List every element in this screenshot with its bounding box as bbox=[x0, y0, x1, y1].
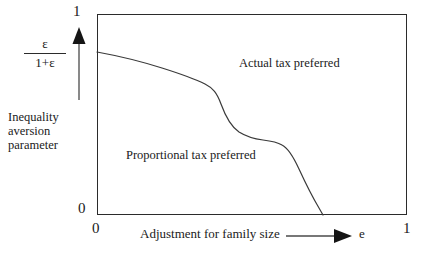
y-axis-caption-line-1: Inequality bbox=[8, 110, 88, 124]
region-label-actual-tax: Actual tax preferred bbox=[239, 56, 340, 70]
y-axis-tick-top: 1 bbox=[73, 3, 81, 20]
right-arrow-icon bbox=[286, 228, 354, 244]
y-axis-fraction-label: ε 1+ε bbox=[14, 36, 76, 71]
x-axis-symbol: e bbox=[359, 227, 365, 242]
fraction-denominator: 1+ε bbox=[14, 54, 76, 71]
region-label-proportional-tax: Proportional tax preferred bbox=[126, 148, 256, 162]
y-axis-tick-bottom: 0 bbox=[78, 200, 86, 217]
x-axis-tick-right: 1 bbox=[403, 220, 411, 237]
x-axis-caption: Adjustment for family size bbox=[140, 227, 280, 242]
indifference-boundary-curve bbox=[97, 14, 407, 215]
figure-canvas: 1 0 0 1 ε 1+ε Inequality aversion parame… bbox=[0, 0, 428, 258]
y-axis-caption-line-2: aversion bbox=[8, 124, 88, 138]
fraction-numerator: ε bbox=[14, 36, 76, 53]
y-axis-caption: Inequality aversion parameter bbox=[8, 110, 88, 152]
y-axis-caption-line-3: parameter bbox=[8, 138, 88, 152]
x-axis-tick-left: 0 bbox=[92, 220, 100, 237]
